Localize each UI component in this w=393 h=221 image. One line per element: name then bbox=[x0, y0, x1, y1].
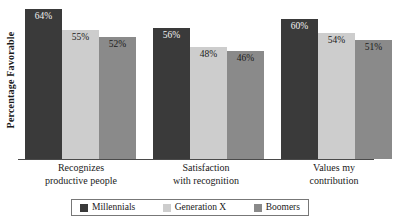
bar-generation-x-1: 48% bbox=[190, 47, 227, 159]
legend-label: Generation X bbox=[175, 203, 226, 213]
bar-value-label: 56% bbox=[153, 31, 190, 41]
bar-millennials-2: 60% bbox=[281, 19, 318, 159]
bar-value-label: 54% bbox=[318, 36, 355, 46]
bar-value-label: 46% bbox=[227, 54, 264, 64]
legend-label: Boomers bbox=[266, 203, 300, 213]
bar-value-label: 48% bbox=[190, 50, 227, 60]
category-label-2: Values my contribution bbox=[275, 162, 393, 187]
legend-swatch-icon bbox=[80, 204, 88, 212]
legend-label: Millennials bbox=[92, 203, 135, 213]
category-label-line-1: Satisfaction bbox=[182, 162, 229, 173]
legend-item-millennials: Millennials bbox=[80, 203, 135, 213]
bar-millennials-0: 64% bbox=[25, 9, 62, 159]
bar-group-satisfaction-with-recognition: 56% 48% 46% bbox=[153, 0, 265, 159]
legend-swatch-icon bbox=[163, 204, 171, 212]
bar-value-label: 51% bbox=[355, 43, 392, 53]
y-axis-title: Percentage Favorable bbox=[0, 0, 22, 160]
category-label-0: Recognizes productive people bbox=[22, 162, 140, 187]
bar-boomers-0: 52% bbox=[99, 37, 136, 159]
bar-group-recognizes-productive-people: 64% 55% 52% bbox=[25, 0, 137, 159]
bar-group-values-my-contribution: 60% 54% 51% bbox=[281, 0, 393, 159]
bar-generation-x-2: 54% bbox=[318, 33, 355, 159]
category-label-1: Satisfaction with recognition bbox=[147, 162, 265, 187]
y-axis-title-text: Percentage Favorable bbox=[6, 32, 16, 129]
bar-boomers-1: 46% bbox=[227, 51, 264, 159]
category-label-line-2: contribution bbox=[275, 175, 393, 188]
category-label-line-1: Values my bbox=[313, 162, 355, 173]
bar-boomers-2: 51% bbox=[355, 40, 392, 159]
plot-area: 64% 55% 52% 56% 48% 46% 60% bbox=[22, 0, 374, 159]
category-label-line-2: with recognition bbox=[147, 175, 265, 188]
bar-value-label: 52% bbox=[99, 40, 136, 50]
x-axis-line bbox=[18, 159, 374, 160]
legend-item-generation-x: Generation X bbox=[163, 203, 226, 213]
legend-swatch-icon bbox=[254, 204, 262, 212]
bar-generation-x-0: 55% bbox=[62, 30, 99, 159]
bar-value-label: 55% bbox=[62, 33, 99, 43]
bar-value-label: 60% bbox=[281, 22, 318, 32]
x-axis-category-labels: Recognizes productive people Satisfactio… bbox=[22, 162, 374, 194]
category-label-line-2: productive people bbox=[22, 175, 140, 188]
legend-item-boomers: Boomers bbox=[254, 203, 300, 213]
bar-value-label: 64% bbox=[25, 12, 62, 22]
chart-legend: Millennials Generation X Boomers bbox=[71, 199, 309, 216]
category-label-line-1: Recognizes bbox=[58, 162, 104, 173]
bar-millennials-1: 56% bbox=[153, 28, 190, 159]
